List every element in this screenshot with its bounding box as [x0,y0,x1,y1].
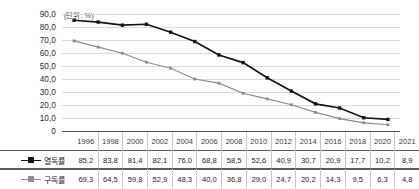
table-cell: 14,3 [321,170,346,189]
data-point-marker [314,111,317,114]
table-cell: 4,8 [395,170,419,189]
y-axis-labels: 90,080,070,060,050,040,030,020,010,00 [0,14,58,131]
data-table-body: 1996199820002002200420062008201020122014… [0,132,419,188]
table-cell: 85,2 [74,151,98,170]
table-cell: 24,7 [271,170,296,189]
table-bottom-rule [0,168,419,169]
table-cell: 9,5 [345,170,370,189]
table-cell: 81,4 [123,151,148,170]
table-cell: 83,8 [98,151,123,170]
data-point-marker [121,52,124,55]
table-column-header: 2012 [271,132,296,151]
data-point-marker [145,61,148,64]
y-axis-tick-label: 70,0 [40,36,56,45]
table-column-header: 2020 [370,132,395,151]
table-cell: 40,0 [197,170,222,189]
chart-figure: 90,080,070,060,050,040,030,020,010,00 (단… [0,0,419,189]
series-line [74,20,388,119]
data-point-marker [193,78,196,81]
legend-square-icon [28,176,34,182]
table-row: 구독률69,364,559,852,948,340,036,829,024,72… [0,170,419,189]
data-point-marker [193,40,196,43]
table-cell: 20,9 [321,151,346,170]
table-cell: 58,5 [222,151,247,170]
table-column-header: 2014 [296,132,321,151]
table-cell: 52,9 [148,170,173,189]
data-point-marker [145,23,148,26]
table-column-header: 1998 [98,132,123,151]
series-1 [72,19,389,122]
legend-label: 구독률 [44,174,65,185]
y-axis-tick-label: 50,0 [40,62,56,71]
y-axis-tick-label: 90,0 [40,10,56,19]
y-axis-tick-label: 10,0 [40,114,56,123]
data-point-marker [97,46,100,49]
table-cell: 30,7 [296,151,321,170]
table-cell: 36,8 [222,170,247,189]
table-column-header: 1996 [74,132,98,151]
table-header-row: 1996199820002002200420062008201020122014… [0,132,419,151]
table-cell: 20,2 [296,170,321,189]
data-point-marker [169,67,172,70]
y-axis-tick-label: 20,0 [40,101,56,110]
data-point-marker [121,23,124,26]
table-cell: 82,1 [148,151,173,170]
legend-item-1: 열독률 [0,151,74,170]
legend-marker-icon [21,175,41,183]
table-cell: 59,8 [123,170,148,189]
data-point-marker [241,61,244,64]
table-column-header: 2018 [345,132,370,151]
table-cell: 40,9 [271,151,296,170]
table-column-header: 2002 [148,132,173,151]
table-row: 열독률85,283,881,482,176,068,858,552,640,93… [0,151,419,170]
table-cell: 69,3 [74,170,98,189]
data-point-marker [218,82,221,85]
table-column-header: 2004 [172,132,197,151]
table-cell: 6,3 [370,170,395,189]
legend-marker-icon [21,156,41,164]
data-point-marker [72,19,75,22]
data-point-marker [387,123,390,126]
series-2 [73,40,390,127]
table-cell: 68,8 [197,151,222,170]
table-column-header: 2016 [321,132,346,151]
table-cell: 10,2 [370,151,395,170]
data-point-marker [266,97,269,100]
data-point-marker [242,92,245,95]
data-point-marker [362,116,365,119]
data-point-marker [290,89,293,92]
table-cell: 17,7 [345,151,370,170]
table-cell: 76,0 [172,151,197,170]
y-axis-tick-label: 60,0 [40,49,56,58]
table-cell: 52,6 [246,151,271,170]
y-axis-tick-label: 40,0 [40,75,56,84]
table-column-header: 2006 [197,132,222,151]
data-point-marker [386,118,389,121]
series-layer [62,14,400,131]
table-cell: 29,0 [246,170,271,189]
data-point-marker [169,31,172,34]
legend-square-icon [28,157,34,163]
data-point-marker [290,103,293,106]
table-column-header: 2000 [123,132,148,151]
data-point-marker [266,76,269,79]
legend-item-2: 구독률 [0,170,74,189]
data-table: 1996199820002002200420062008201020122014… [0,132,419,188]
legend-label: 열독률 [44,155,65,166]
table-cell: 8,9 [395,151,419,170]
data-point-marker [362,121,365,124]
table-corner-cell [0,132,74,151]
y-axis-tick-label: 80,0 [40,23,56,32]
data-point-marker [73,40,76,43]
y-axis-tick-label: 30,0 [40,88,56,97]
table-column-header: 2021 [395,132,419,151]
data-point-marker [314,102,317,105]
table-column-header: 2008 [222,132,247,151]
table-cell: 48,3 [172,170,197,189]
data-point-marker [97,20,100,23]
plot-area [62,14,400,131]
data-point-marker [338,117,341,120]
table-column-header: 2010 [246,132,271,151]
data-point-marker [338,106,341,109]
data-point-marker [217,53,220,56]
